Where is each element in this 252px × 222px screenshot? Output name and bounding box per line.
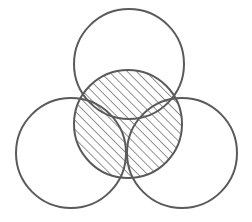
diagram-canvas xyxy=(0,0,252,222)
venn-diagram xyxy=(0,0,252,222)
